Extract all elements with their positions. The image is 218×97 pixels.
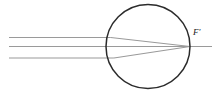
- optics-diagram: F′: [0, 0, 218, 97]
- refracted-ray-lower: [114, 47, 190, 59]
- optics-diagram-canvas: F′: [0, 0, 218, 97]
- refracted-ray-upper: [111, 38, 190, 47]
- focal-point-label: F′: [192, 27, 201, 37]
